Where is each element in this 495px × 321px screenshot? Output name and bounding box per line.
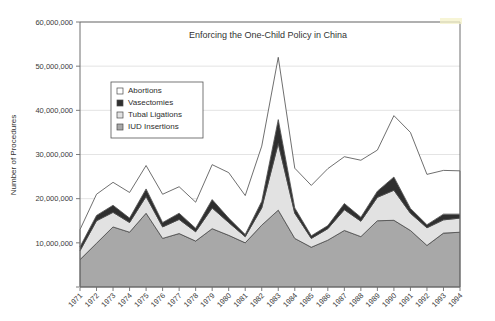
legend-swatch-light-gray-swatch (117, 112, 123, 118)
legend-label-tubal-ligations: Tubal Ligations (128, 110, 182, 119)
legend-label-vasectomies: Vasectomies (128, 98, 173, 107)
y-tick-label: 10,000,000 (35, 239, 73, 248)
y-tick-label: 60,000,000 (35, 18, 73, 27)
chart-container: 60,000,00050,000,00040,000,00030,000,000… (0, 0, 495, 321)
scan-artifact (440, 18, 462, 24)
legend-swatch-white-swatch (117, 88, 123, 94)
y-tick-label: 20,000,000 (35, 194, 73, 203)
legend-label-abortions: Abortions (128, 86, 162, 95)
legend-swatch-black-swatch (117, 100, 123, 106)
y-tick-label: 50,000,000 (35, 62, 73, 71)
legend-swatch-medium-gray-swatch (117, 124, 123, 130)
stacked-area-chart: 60,000,00050,000,00040,000,00030,000,000… (0, 0, 495, 321)
chart-legend: AbortionsVasectomiesTubal LigationsIUD I… (111, 82, 203, 138)
legend-label-iud-insertions: IUD Insertions (128, 122, 179, 131)
chart-title: Enforcing the One-Child Policy in China (189, 30, 347, 40)
y-axis-title: Number of Procedures (9, 115, 18, 195)
y-tick-label: 40,000,000 (35, 106, 73, 115)
y-tick-label: 30,000,000 (35, 150, 73, 159)
